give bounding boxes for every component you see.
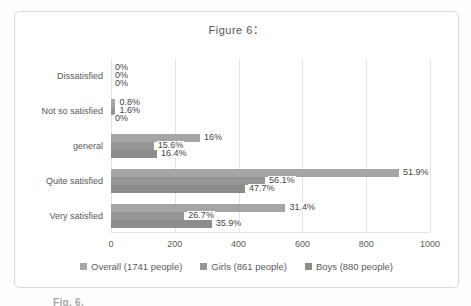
bar-boys <box>111 220 212 228</box>
x-tick-label: 200 <box>155 239 195 249</box>
bar-boys <box>111 185 245 193</box>
gridline <box>430 59 431 232</box>
legend-label-boys: Boys (880 people) <box>316 261 393 272</box>
document-page: Figure 6： 02004006008001000Dissatisfied0… <box>0 0 471 306</box>
bar-overall <box>111 169 399 177</box>
value-label-overall: 31.4% <box>288 203 316 212</box>
x-tick-label: 0 <box>91 239 131 249</box>
legend-swatch-icon <box>200 263 207 270</box>
bar-boys <box>111 150 157 158</box>
value-label-boys: 47.7% <box>248 184 276 193</box>
x-tick-label: 600 <box>282 239 322 249</box>
category-label: Very satisfied <box>19 211 103 221</box>
category-group: Dissatisfied0%0%0% <box>111 59 430 94</box>
x-tick-label: 1000 <box>410 239 450 249</box>
value-label-boys: 0% <box>114 114 129 123</box>
legend-swatch-icon <box>80 263 87 270</box>
bar-girls <box>111 142 154 150</box>
legend-item-overall: Overall (1741 people) <box>80 261 182 272</box>
bar-overall <box>111 99 115 107</box>
figure-caption-partial: Fig. 6. <box>53 297 84 306</box>
plot-area: 02004006008001000Dissatisfied0%0%0%Not s… <box>111 59 430 233</box>
value-label-girls: 26.7% <box>187 211 215 220</box>
category-group: Very satisfied31.4%26.7%35.9% <box>111 198 430 233</box>
bar-girls <box>111 177 265 185</box>
legend-label-girls: Girls (861 people) <box>211 261 287 272</box>
legend-item-girls: Girls (861 people) <box>200 261 287 272</box>
category-label: Dissatisfied <box>19 71 103 81</box>
value-label-boys: 35.9% <box>215 219 243 228</box>
bar-overall <box>111 134 200 142</box>
category-group: Not so satisfied0.8%1.6%0% <box>111 94 430 129</box>
category-label: Quite satisfied <box>19 176 103 186</box>
value-label-overall: 51.9% <box>402 168 430 177</box>
legend-label-overall: Overall (1741 people) <box>91 261 182 272</box>
legend-item-boys: Boys (880 people) <box>305 261 393 272</box>
bar-girls <box>111 212 184 220</box>
category-group: Quite satisfied51.9%56.1%47.7% <box>111 163 430 198</box>
chart-title: Figure 6： <box>15 21 458 37</box>
category-label: general <box>19 141 103 151</box>
value-label-boys: 0% <box>114 79 129 88</box>
legend: Overall (1741 people)Girls (861 people)B… <box>15 261 458 272</box>
x-tick-label: 800 <box>346 239 386 249</box>
value-label-overall: 16% <box>203 133 223 142</box>
chart-frame: Figure 6： 02004006008001000Dissatisfied0… <box>14 11 459 288</box>
legend-swatch-icon <box>305 263 312 270</box>
category-group: general16%15.6%16.4% <box>111 129 430 164</box>
category-label: Not so satisfied <box>19 106 103 116</box>
x-tick-label: 400 <box>219 239 259 249</box>
value-label-boys: 16.4% <box>160 149 188 158</box>
